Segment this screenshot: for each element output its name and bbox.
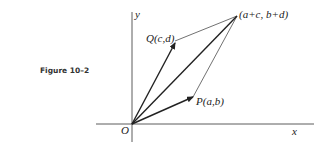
point-sum-label: (a+c, b+d): [239, 9, 288, 20]
point-q-label: Q(c,d): [146, 33, 174, 44]
vector-q-arrow: [132, 43, 175, 124]
origin-label: O: [121, 125, 129, 136]
y-axis-label: y: [135, 9, 140, 20]
point-p-label: P(a,b): [196, 96, 224, 107]
side-q-to-sum: [175, 16, 237, 41]
x-axis-label: x: [292, 126, 297, 137]
figure-caption: Figure 10–2: [40, 67, 89, 75]
side-p-to-sum: [193, 16, 237, 97]
vector-p-arrow: [132, 97, 193, 124]
